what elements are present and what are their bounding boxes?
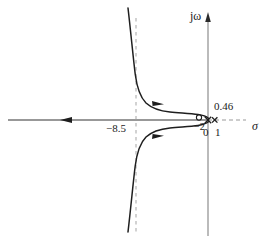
gain-crossing-label: 0.46 (214, 101, 233, 112)
zero-marker (196, 115, 201, 120)
locus-arrow-upper (152, 101, 164, 106)
root-locus-plot (0, 0, 272, 250)
asymptote-intercept-label: −8.5 (106, 123, 126, 134)
locus-upper-branch (128, 8, 208, 118)
locus-arrow-real-axis (60, 117, 72, 123)
real-axis-label: σ (252, 120, 258, 132)
imaginary-axis-arrow (205, 12, 211, 22)
pole-origin-label: 0 (203, 127, 209, 138)
locus-arrow-lower (152, 134, 164, 139)
pole-one-label: 1 (215, 127, 221, 138)
root-locus-figure: jω σ −8.5 −2 0.46 0 1 (0, 0, 272, 250)
locus-lower-branch (128, 122, 208, 232)
imaginary-axis-label: jω (190, 10, 201, 22)
